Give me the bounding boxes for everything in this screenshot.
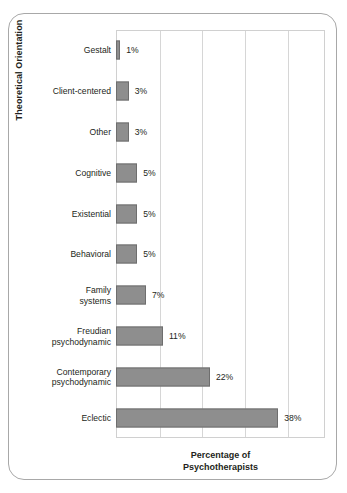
bar-value-label: 7% xyxy=(152,290,164,300)
category-label: Gestalt xyxy=(26,45,111,56)
bar-value-label: 5% xyxy=(143,249,155,259)
x-axis-title-line2: Psychotherapists xyxy=(116,461,325,473)
bar-value-label: 22% xyxy=(216,372,233,382)
bar-row: Other3% xyxy=(0,113,347,151)
bar xyxy=(116,204,137,223)
bar-row: Behavioral5% xyxy=(0,235,347,273)
bar-value-label: 3% xyxy=(135,127,147,137)
bar-row: Eclectic38% xyxy=(0,399,347,437)
x-axis-title: Percentage of Psychotherapists xyxy=(116,449,325,473)
bar xyxy=(116,367,210,386)
bar-value-label: 1% xyxy=(126,45,138,55)
bar xyxy=(116,327,163,346)
category-label: Freudianpsychodynamic xyxy=(26,326,111,347)
bar-value-label: 5% xyxy=(143,168,155,178)
bar xyxy=(116,286,146,305)
bar-row: Gestalt1% xyxy=(0,31,347,69)
category-label: Client-centered xyxy=(26,86,111,97)
bar xyxy=(116,82,129,101)
bar-row: Cognitive5% xyxy=(0,154,347,192)
bar-value-label: 11% xyxy=(169,331,186,341)
bar-row: Client-centered3% xyxy=(0,72,347,110)
bar-value-label: 5% xyxy=(143,209,155,219)
category-label: Other xyxy=(26,127,111,138)
category-label: Behavioral xyxy=(26,249,111,260)
category-label: Cognitive xyxy=(26,168,111,179)
bar xyxy=(116,408,278,427)
bar xyxy=(116,163,137,182)
bar xyxy=(116,245,137,264)
x-axis-title-line1: Percentage of xyxy=(116,449,325,461)
bar-row: Freudianpsychodynamic11% xyxy=(0,317,347,355)
category-label: Existential xyxy=(26,208,111,219)
bar xyxy=(116,41,120,60)
bar-value-label: 3% xyxy=(135,86,147,96)
bar xyxy=(116,123,129,142)
category-label: Contemporarypsychodynamic xyxy=(26,366,111,387)
bar-row: Contemporarypsychodynamic22% xyxy=(0,358,347,396)
category-label: Familysystems xyxy=(26,285,111,306)
bar-row: Existential5% xyxy=(0,195,347,233)
category-label: Eclectic xyxy=(26,412,111,423)
bar-value-label: 38% xyxy=(284,413,301,423)
bar-row: Familysystems7% xyxy=(0,276,347,314)
